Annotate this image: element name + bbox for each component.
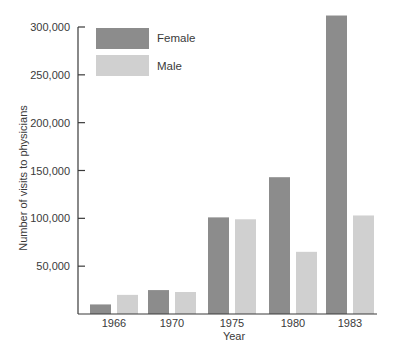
bar-female-1975 [208, 217, 229, 314]
y-tick-label: 250,000 [30, 69, 70, 81]
y-tick-label: 50,000 [36, 260, 70, 272]
y-tick-label: 100,000 [30, 212, 70, 224]
bar-male-1966 [117, 295, 138, 314]
y-ticks: 50,000100,000150,000200,000250,000300,00… [30, 21, 85, 272]
legend-swatch-male [96, 55, 149, 76]
x-tick-label: 1975 [220, 317, 244, 329]
bar-female-1983 [326, 16, 347, 314]
y-tick-label: 150,000 [30, 165, 70, 177]
y-tick-label: 300,000 [30, 21, 70, 33]
bar-female-1970 [148, 290, 169, 314]
bar-chart: 50,000100,000150,000200,000250,000300,00… [0, 0, 393, 358]
bar-male-1975 [235, 219, 256, 314]
x-axis-title: Year [223, 330, 246, 342]
x-tick-label: 1980 [281, 317, 305, 329]
bar-male-1970 [175, 292, 196, 314]
x-tick-label: 1966 [102, 317, 126, 329]
x-tick-labels: 19661970197519801983 [102, 317, 362, 329]
legend-label-female: Female [157, 32, 195, 44]
y-tick-label: 200,000 [30, 117, 70, 129]
bar-male-1980 [296, 252, 317, 314]
x-tick-label: 1983 [338, 317, 362, 329]
legend-swatch-female [96, 28, 149, 49]
bar-male-1983 [353, 215, 374, 314]
bar-female-1966 [90, 304, 111, 314]
y-axis-title: Number of visits to physicians [17, 105, 29, 251]
legend-label-male: Male [157, 60, 182, 72]
bar-female-1980 [269, 177, 290, 314]
legend: Female Male [96, 28, 195, 76]
x-tick-label: 1970 [160, 317, 184, 329]
